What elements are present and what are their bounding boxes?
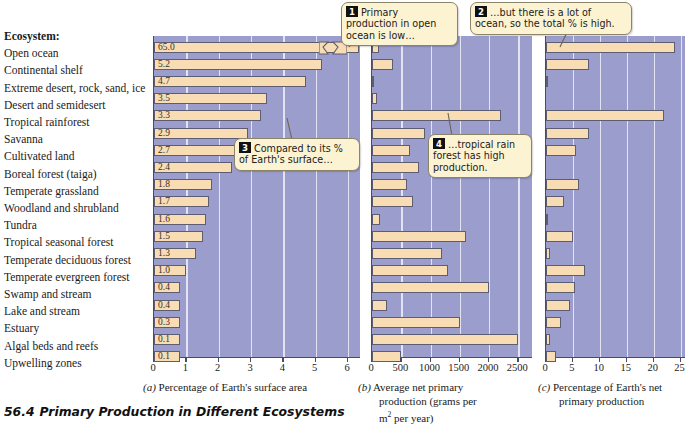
figure-primary-production: Ecosystem: Open oceanContinental shelfEx… [0,0,688,429]
callout-1-text: Primary production in open ocean is low… [346,7,436,41]
figure-title: 56.4Primary Production in Different Ecos… [4,404,345,419]
callout-leader-lines [0,0,688,429]
callout-4: 4…tropical rain forest has high producti… [428,134,532,178]
callout-1-number: 1 [346,6,358,17]
callout-1: 1Primary production in open ocean is low… [341,2,458,46]
figure-title-text: Primary Production in Different Ecosyste… [40,404,345,419]
callout-2: 2…but there is a lot of ocean, so the to… [470,2,632,35]
callout-3-number: 3 [239,142,251,153]
callout-2-number: 2 [475,6,487,17]
figure-number: 56.4 [4,404,35,419]
callout-4-text: …tropical rain forest has high productio… [433,139,515,173]
callout-4-number: 4 [433,138,445,149]
callout-3-text: Compared to its % of Earth's surface… [239,143,343,166]
callout-2-text: …but there is a lot of ocean, so the tot… [475,7,615,30]
callout-3: 3Compared to its % of Earth's surface… [234,138,360,171]
